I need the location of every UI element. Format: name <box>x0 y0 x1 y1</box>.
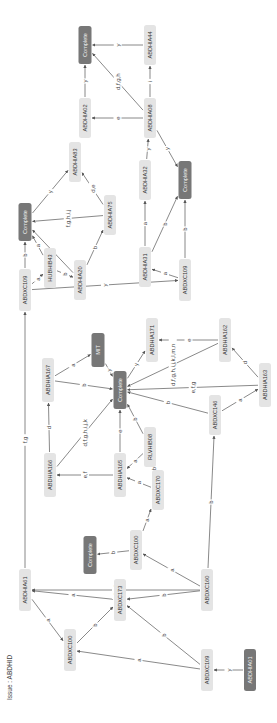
node-label: ABDHIA02 <box>82 104 88 131</box>
node-label: ABDXC160 <box>204 576 210 605</box>
issue-node[interactable]: ABDXC109 <box>19 269 31 311</box>
node-label: ABDXC146 <box>212 401 218 430</box>
edge-label: i <box>147 81 153 82</box>
nodes-layer: ABDHIA61ABDXC100ABDXC173ABDXC109ABDHIA01… <box>19 25 272 691</box>
edge-label: f,g,h,i,j <box>65 210 71 228</box>
node-label: ABDXC100 <box>67 636 73 665</box>
issue-node[interactable]: RLVHIB08 <box>144 427 156 467</box>
node-label: Complete <box>82 33 88 57</box>
node-label: RLVHIB08 <box>147 434 153 460</box>
node-label: ABDHIA44 <box>147 31 153 58</box>
status-node-complete[interactable]: Complete <box>79 26 92 64</box>
status-node-complete[interactable]: Complete <box>114 371 127 409</box>
edge-label: y <box>106 369 112 372</box>
node-label: ABDHIA165 <box>117 460 123 490</box>
node-label: ABDHIA31 <box>142 253 148 280</box>
edge-label: y <box>102 284 108 287</box>
issue-node[interactable]: ABDHIA61 <box>19 569 31 611</box>
issue-node[interactable]: ABDXC146 <box>209 395 221 435</box>
node-label: ABDHIA83 <box>72 148 78 175</box>
edge-label: d <box>46 426 52 429</box>
issue-node[interactable]: ABDHIA08 <box>144 98 156 138</box>
status-node-abdhia01[interactable]: ABDHIA01 <box>244 649 256 691</box>
status-node-complete[interactable]: Complete <box>179 161 192 199</box>
edge-label: e,f <box>82 471 88 478</box>
issue-node[interactable]: ABDHIA166 <box>44 453 56 497</box>
issue-node[interactable]: ABDHIA167 <box>42 358 54 402</box>
issue-node[interactable]: ABDXC170 <box>152 470 164 510</box>
node-label: ABDHIA32 <box>142 166 148 193</box>
node-label: Complete <box>87 543 93 567</box>
node-label: MIT <box>95 345 101 355</box>
issue-node[interactable]: ABDHIA171 <box>146 318 158 362</box>
node-label: Complete <box>182 168 188 192</box>
issue-node[interactable]: ABDHIA32 <box>139 160 151 200</box>
status-node-complete[interactable]: Complete <box>84 536 97 574</box>
node-label: ABDXC109 <box>182 266 188 295</box>
node-label: ABDHIA20 <box>77 266 83 293</box>
node-label: ABDHIA61 <box>22 576 28 603</box>
edge-label: y <box>133 363 139 366</box>
edge-label: y <box>145 148 151 151</box>
status-node-complete[interactable]: Complete <box>19 203 32 241</box>
node-label: ABDHIA75 <box>107 201 113 228</box>
edge-label: d,f,g,h <box>115 73 121 90</box>
issue-node[interactable]: ABDHIA31 <box>139 247 151 287</box>
edge-label: d,f,g,h,i,j,k <box>82 418 88 446</box>
edge-label: y <box>164 147 170 150</box>
issue-node[interactable]: ABDHIA02 <box>79 98 91 138</box>
node-label: ABDHIA08 <box>147 104 153 131</box>
issue-node[interactable]: ABDHIA162 <box>219 318 231 362</box>
issue-node[interactable]: ABDHIA44 <box>144 25 156 65</box>
issue-node[interactable]: ABDHIA163 <box>259 363 271 407</box>
edge-label: y <box>115 44 121 47</box>
issue-node[interactable]: ABDHIA83 <box>69 142 81 182</box>
issue-node[interactable]: ABDXC173 <box>114 579 126 621</box>
node-label: ABDXC109 <box>204 656 210 685</box>
issue-node[interactable]: ABDXC100 <box>130 530 142 570</box>
node-label: ABDHIA167 <box>45 365 51 395</box>
issue-node[interactable]: ABDXC109 <box>201 649 213 691</box>
edge-label: d,f,g,h,i,j,k,l,m,n <box>170 344 176 386</box>
node-label: ABDXC100 <box>133 536 139 565</box>
node-label: HUBHIB43 <box>47 254 53 281</box>
status-node-mit[interactable]: MIT <box>92 333 105 367</box>
issue-node[interactable]: ABDHIA20 <box>74 260 86 300</box>
edge-label: e,f,g <box>190 382 196 394</box>
edge-label: y <box>226 669 232 672</box>
node-label: ABDXC170 <box>155 476 161 505</box>
edge-label: y <box>47 190 53 193</box>
edge-label: f,g <box>22 437 28 444</box>
node-label: ABDHIA162 <box>222 325 228 355</box>
node-label: ABDHIA171 <box>149 325 155 355</box>
node-label: Complete <box>22 210 28 234</box>
workflow-diagram: aad,e,hbbaybabaaabdd,f,g,h,i,j,kee,fbaby… <box>0 0 277 723</box>
issue-node[interactable]: ABDXC160 <box>201 569 213 611</box>
node-label: ABDXC109 <box>22 276 28 305</box>
node-label: ABDHIA163 <box>262 370 268 400</box>
node-label: ABDHIA166 <box>47 460 53 490</box>
issue-node[interactable]: ABDXC100 <box>64 629 76 671</box>
edge-label: d,e <box>90 184 96 193</box>
edge-label: y <box>82 80 88 83</box>
issue-node[interactable]: ABDHIA165 <box>114 453 126 497</box>
issue-node[interactable]: HUBHIB43 <box>44 248 56 288</box>
node-label: ABDHIA01 <box>247 656 253 683</box>
node-label: Complete <box>117 378 123 402</box>
edge-label: d <box>242 361 248 364</box>
issue-label: Issue : ABDHID <box>6 655 13 700</box>
issue-node[interactable]: ABDHIA75 <box>104 195 116 235</box>
issue-node[interactable]: ABDXC109 <box>179 259 191 301</box>
node-label: ABDXC173 <box>117 586 123 615</box>
